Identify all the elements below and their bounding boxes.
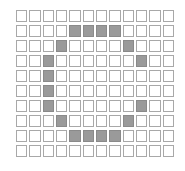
grid-cell[interactable] — [149, 130, 160, 142]
grid-cell-filled[interactable] — [136, 100, 147, 112]
grid-cell[interactable] — [83, 115, 94, 127]
grid-cell[interactable] — [123, 55, 134, 67]
grid-cell[interactable] — [136, 25, 147, 37]
grid-cell[interactable] — [29, 115, 40, 127]
grid-cell[interactable] — [109, 85, 120, 97]
grid-cell[interactable] — [16, 100, 27, 112]
grid-cell[interactable] — [149, 100, 160, 112]
grid-cell[interactable] — [29, 70, 40, 82]
grid-cell-filled[interactable] — [109, 130, 120, 142]
grid-cell[interactable] — [109, 115, 120, 127]
grid-cell-filled[interactable] — [83, 130, 94, 142]
grid-cell[interactable] — [163, 40, 174, 52]
grid-cell-filled[interactable] — [83, 25, 94, 37]
grid-cell[interactable] — [56, 55, 67, 67]
grid-cell[interactable] — [29, 10, 40, 22]
grid-cell[interactable] — [69, 40, 80, 52]
grid-cell[interactable] — [16, 70, 27, 82]
grid-cell[interactable] — [43, 10, 54, 22]
grid-cell[interactable] — [109, 10, 120, 22]
grid-cell[interactable] — [29, 100, 40, 112]
grid-cell[interactable] — [83, 70, 94, 82]
grid-cell[interactable] — [16, 55, 27, 67]
grid-cell[interactable] — [56, 145, 67, 157]
grid-cell[interactable] — [109, 40, 120, 52]
grid-cell[interactable] — [96, 55, 107, 67]
grid-cell[interactable] — [96, 115, 107, 127]
grid-cell[interactable] — [16, 40, 27, 52]
grid-cell[interactable] — [136, 115, 147, 127]
grid-cell[interactable] — [29, 130, 40, 142]
grid-cell[interactable] — [83, 145, 94, 157]
grid-cell[interactable] — [123, 85, 134, 97]
grid-cell[interactable] — [149, 40, 160, 52]
grid-cell[interactable] — [56, 130, 67, 142]
grid-cell[interactable] — [136, 85, 147, 97]
grid-cell[interactable] — [83, 40, 94, 52]
grid-cell[interactable] — [123, 70, 134, 82]
grid-cell[interactable] — [29, 25, 40, 37]
grid-cell[interactable] — [69, 85, 80, 97]
grid-cell[interactable] — [16, 25, 27, 37]
grid-cell-filled[interactable] — [123, 115, 134, 127]
grid-cell[interactable] — [163, 115, 174, 127]
grid-cell[interactable] — [123, 145, 134, 157]
grid-cell-filled[interactable] — [56, 115, 67, 127]
grid-cell[interactable] — [83, 55, 94, 67]
grid-cell[interactable] — [56, 25, 67, 37]
grid-cell[interactable] — [123, 100, 134, 112]
grid-cell[interactable] — [69, 10, 80, 22]
grid-cell[interactable] — [136, 10, 147, 22]
grid-cell-filled[interactable] — [136, 55, 147, 67]
grid-cell[interactable] — [163, 85, 174, 97]
grid-cell[interactable] — [69, 70, 80, 82]
grid-cell[interactable] — [136, 145, 147, 157]
grid-cell-filled[interactable] — [43, 70, 54, 82]
grid-cell-filled[interactable] — [43, 100, 54, 112]
grid-cell[interactable] — [123, 25, 134, 37]
grid-cell-filled[interactable] — [69, 25, 80, 37]
grid-cell-filled[interactable] — [43, 85, 54, 97]
grid-cell[interactable] — [16, 115, 27, 127]
grid-cell-filled[interactable] — [96, 25, 107, 37]
grid-cell[interactable] — [69, 100, 80, 112]
grid-cell[interactable] — [123, 10, 134, 22]
grid-cell[interactable] — [149, 145, 160, 157]
grid-cell[interactable] — [109, 145, 120, 157]
grid-cell[interactable] — [149, 10, 160, 22]
grid-cell[interactable] — [96, 70, 107, 82]
grid-cell[interactable] — [69, 145, 80, 157]
grid-cell[interactable] — [136, 40, 147, 52]
grid-cell[interactable] — [83, 85, 94, 97]
grid-cell[interactable] — [163, 25, 174, 37]
grid-cell[interactable] — [16, 145, 27, 157]
grid-cell[interactable] — [43, 130, 54, 142]
grid-cell[interactable] — [96, 85, 107, 97]
grid-cell[interactable] — [109, 55, 120, 67]
grid-cell[interactable] — [83, 10, 94, 22]
grid-cell[interactable] — [29, 145, 40, 157]
grid-cell[interactable] — [163, 55, 174, 67]
grid-cell[interactable] — [83, 100, 94, 112]
grid-cell[interactable] — [56, 100, 67, 112]
grid-cell-filled[interactable] — [56, 40, 67, 52]
grid-cell[interactable] — [29, 55, 40, 67]
grid-cell[interactable] — [43, 25, 54, 37]
grid-cell[interactable] — [43, 115, 54, 127]
grid-cell[interactable] — [149, 115, 160, 127]
grid-cell[interactable] — [149, 85, 160, 97]
grid-cell[interactable] — [149, 70, 160, 82]
grid-cell[interactable] — [16, 130, 27, 142]
grid-cell[interactable] — [69, 55, 80, 67]
grid-cell[interactable] — [123, 130, 134, 142]
grid-cell[interactable] — [43, 145, 54, 157]
grid-cell[interactable] — [69, 115, 80, 127]
grid-cell[interactable] — [136, 70, 147, 82]
grid-cell[interactable] — [29, 40, 40, 52]
grid-cell[interactable] — [96, 40, 107, 52]
grid-cell[interactable] — [29, 85, 40, 97]
grid-cell-filled[interactable] — [69, 130, 80, 142]
grid-cell[interactable] — [163, 70, 174, 82]
grid-cell[interactable] — [149, 55, 160, 67]
grid-cell[interactable] — [96, 145, 107, 157]
